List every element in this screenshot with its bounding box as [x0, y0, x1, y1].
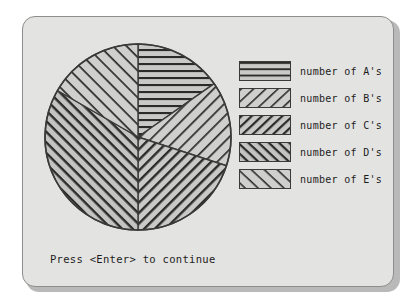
legend-label-c: number of C's [300, 120, 382, 131]
legend-item-e: number of E's [239, 168, 389, 190]
legend-label-d: number of D's [300, 147, 382, 158]
legend-swatch-d-icon [239, 142, 291, 162]
continue-prompt: Press <Enter> to continue [50, 253, 216, 265]
legend-label-a: number of A's [300, 66, 382, 77]
legend: number of A's number of B's number of C'… [239, 60, 389, 195]
legend-item-b: number of B's [239, 87, 389, 109]
legend-swatch-b-icon [239, 88, 291, 108]
legend-item-c: number of C's [239, 114, 389, 136]
dialog-panel: number of A's number of B's number of C'… [22, 16, 394, 287]
pie-chart-svg [43, 42, 233, 232]
legend-swatch-e-icon [239, 169, 291, 189]
pie-chart [43, 42, 233, 232]
legend-swatch-a-icon [239, 61, 291, 81]
legend-label-b: number of B's [300, 93, 382, 104]
screen: number of A's number of B's number of C'… [0, 0, 420, 307]
legend-label-e: number of E's [300, 174, 382, 185]
legend-item-d: number of D's [239, 141, 389, 163]
legend-swatch-c-icon [239, 115, 291, 135]
legend-item-a: number of A's [239, 60, 389, 82]
